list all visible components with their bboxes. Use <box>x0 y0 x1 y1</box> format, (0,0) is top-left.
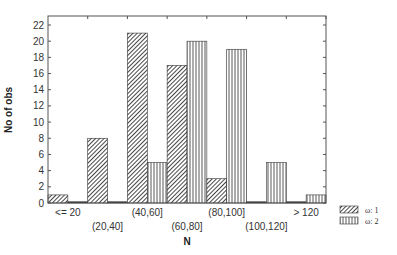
legend-label-1: ω: 1 <box>365 206 379 215</box>
y-tick-label: 8 <box>38 133 44 144</box>
bar-1-0 <box>48 195 68 203</box>
bar-1-3 <box>167 65 187 203</box>
x-tick-label: (40,60] <box>132 207 163 218</box>
y-tick-label: 12 <box>33 100 45 111</box>
x-tick-label: <= 20 <box>55 207 81 218</box>
y-tick-label: 10 <box>33 117 45 128</box>
y-tick-label: 20 <box>33 36 45 47</box>
y-tick-label: 16 <box>33 68 45 79</box>
x-tick-label: (100,120] <box>245 221 287 232</box>
bar-2-4 <box>227 49 247 203</box>
legend: ω: 1ω: 2 <box>340 206 379 226</box>
histogram-chart: 0246810121416182022 <= 20(20,40](40,60](… <box>0 0 397 255</box>
y-axis-title: No of obs <box>3 87 14 134</box>
bar-1-2 <box>127 33 147 203</box>
bar-2-2 <box>147 163 167 203</box>
x-tick-label: (20,40] <box>92 221 123 232</box>
x-tick-label: > 120 <box>293 207 319 218</box>
y-tick-label: 0 <box>38 198 44 209</box>
y-tick-label: 18 <box>33 52 45 63</box>
bar-2-3 <box>187 41 207 203</box>
x-tick-label: (80,100] <box>208 207 245 218</box>
y-tick-label: 22 <box>33 20 45 31</box>
legend-swatch-2 <box>340 217 358 224</box>
x-tick-label: (60,80] <box>171 221 202 232</box>
bar-1-1 <box>88 138 108 203</box>
y-tick-label: 6 <box>38 149 44 160</box>
legend-label-2: ω: 2 <box>365 217 379 226</box>
y-tick-label: 14 <box>33 84 45 95</box>
bar-2-5 <box>266 163 286 203</box>
bar-1-4 <box>207 179 227 203</box>
plot-area <box>48 16 326 203</box>
x-axis-title: N <box>183 236 190 247</box>
legend-swatch-1 <box>340 206 358 213</box>
y-tick-label: 4 <box>38 165 44 176</box>
bar-2-6 <box>306 195 326 203</box>
y-tick-label: 2 <box>38 181 44 192</box>
